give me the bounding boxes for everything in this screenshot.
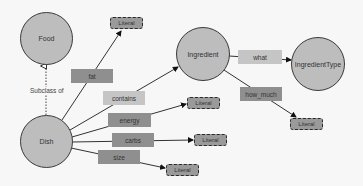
edge-label-how-much-text: how_much [245,91,276,98]
node-food[interactable]: Food [20,12,73,65]
literal-carbs[interactable]: Literal [194,134,227,146]
subclass-annotation: Subclass of [29,87,65,94]
literal-energy-label: Literal [195,100,211,106]
node-ingredient-type[interactable]: IngredientType [291,37,345,91]
literal-size-label: Literal [174,167,190,173]
edge-label-what[interactable]: what [238,50,282,64]
literal-carbs-label: Literal [202,137,218,143]
edge-label-contains-text: contains [112,95,136,102]
literal-how-much-label: Literal [298,121,314,127]
edge-label-fat[interactable]: fat [71,69,113,83]
edge-label-size-text: size [113,154,125,161]
edge-label-energy-text: energy [120,117,140,124]
node-dish-label: Dish [39,138,53,145]
node-food-label: Food [39,35,55,42]
edge-label-contains[interactable]: contains [103,91,145,105]
edge-label-how-much[interactable]: how_much [240,87,282,101]
literal-size[interactable]: Literal [166,164,199,176]
edge-label-size[interactable]: size [98,150,140,164]
node-ingredient-label: Ingredient [187,51,218,58]
edge-label-carbs-text: carbs [125,137,141,144]
literal-energy[interactable]: Literal [187,97,220,109]
edge-label-fat-text: fat [88,73,95,80]
edge-label-what-text: what [253,54,267,61]
node-ingredient[interactable]: Ingredient [176,27,230,81]
node-ingredient-type-label: IngredientType [295,61,341,68]
ontology-diagram: Food Dish Ingredient IngredientType Lite… [0,0,363,186]
literal-how-much[interactable]: Literal [290,118,323,130]
edge-label-carbs[interactable]: carbs [112,133,154,147]
literal-fat-label: Literal [118,20,134,26]
node-dish[interactable]: Dish [20,115,73,168]
edge-label-energy[interactable]: energy [108,113,151,127]
literal-fat[interactable]: Literal [110,17,143,29]
